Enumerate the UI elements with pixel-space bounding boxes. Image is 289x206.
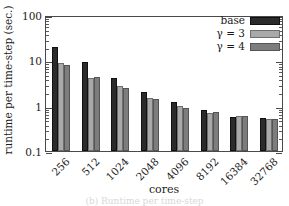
legend-label: γ = 4 xyxy=(217,41,245,52)
legend-label: base xyxy=(220,15,245,26)
legend-item: γ = 4 xyxy=(186,41,280,52)
chart-legend: baseγ = 3γ = 4 xyxy=(186,15,280,54)
bar xyxy=(123,88,129,151)
y-axis-tick-labels: 0.1110100 xyxy=(16,0,42,206)
legend-label: γ = 3 xyxy=(217,28,245,39)
bar xyxy=(64,65,70,151)
bar xyxy=(213,112,219,151)
legend-item: base xyxy=(186,15,280,26)
legend-item: γ = 3 xyxy=(186,28,280,39)
bar-group xyxy=(225,116,255,151)
figure-caption: (b) Runtime per time-step xyxy=(0,197,289,206)
legend-swatch xyxy=(250,43,280,51)
y-axis-label: runtime per time-step (sec.) xyxy=(1,2,15,158)
y-tick-label: 0.1 xyxy=(16,147,42,157)
bar-group xyxy=(254,118,284,151)
y-tick-mark xyxy=(276,153,282,154)
bar-group xyxy=(106,78,136,151)
bar-group xyxy=(46,47,76,151)
bar xyxy=(272,119,278,151)
x-axis-label: cores xyxy=(45,184,283,196)
legend-swatch xyxy=(250,30,280,38)
bar-group xyxy=(195,110,225,151)
legend-swatch xyxy=(250,17,280,25)
bar xyxy=(242,116,248,151)
bar xyxy=(183,108,189,151)
bar-group xyxy=(76,62,106,151)
bar-group xyxy=(165,102,195,151)
bar xyxy=(94,77,100,151)
y-tick-label: 10 xyxy=(16,56,42,66)
bar-group xyxy=(135,92,165,151)
y-tick-label: 1 xyxy=(16,102,42,112)
bar xyxy=(153,99,159,151)
y-tick-mark xyxy=(46,153,52,154)
y-tick-label: 100 xyxy=(16,11,42,21)
chart-figure: runtime per time-step (sec.) 0.1110100 2… xyxy=(0,0,289,206)
